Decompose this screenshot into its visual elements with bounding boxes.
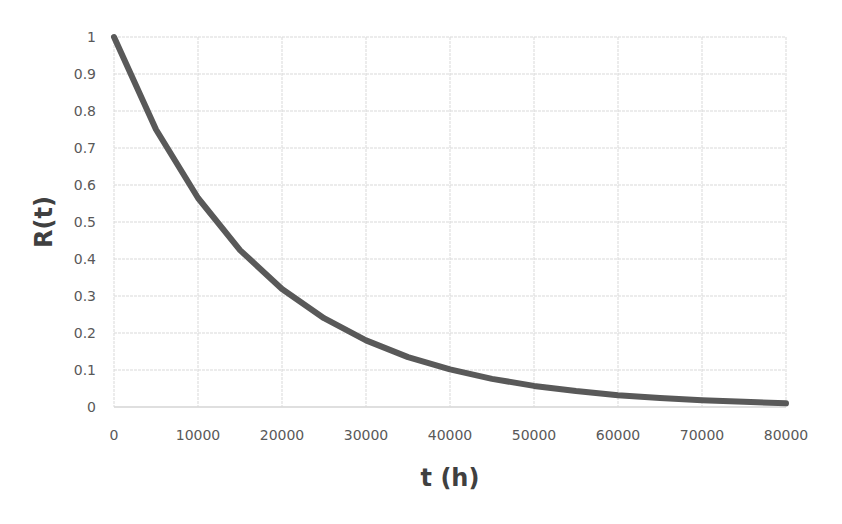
x-tick-label: 70000 bbox=[680, 427, 725, 443]
y-tick-label: 0.8 bbox=[74, 103, 96, 119]
x-tick-label: 50000 bbox=[512, 427, 557, 443]
y-axis-ticks: 00.10.20.30.40.50.60.70.80.91 bbox=[74, 29, 96, 415]
x-tick-label: 10000 bbox=[176, 427, 221, 443]
y-tick-label: 0.9 bbox=[74, 66, 96, 82]
y-axis-title: R(t) bbox=[30, 196, 58, 248]
reliability-chart: 00.10.20.30.40.50.60.70.80.91 0100002000… bbox=[0, 0, 842, 524]
y-tick-label: 0 bbox=[87, 399, 96, 415]
y-tick-label: 0.5 bbox=[74, 214, 96, 230]
y-tick-label: 0.1 bbox=[74, 362, 96, 378]
x-tick-label: 30000 bbox=[344, 427, 389, 443]
x-axis-ticks: 0100002000030000400005000060000700008000… bbox=[110, 427, 809, 443]
x-axis-title: t (h) bbox=[421, 464, 480, 492]
y-tick-label: 0.4 bbox=[74, 251, 96, 267]
x-tick-label: 40000 bbox=[428, 427, 473, 443]
x-tick-label: 60000 bbox=[596, 427, 641, 443]
y-tick-label: 0.3 bbox=[74, 288, 96, 304]
x-tick-label: 80000 bbox=[764, 427, 809, 443]
x-tick-label: 20000 bbox=[260, 427, 305, 443]
y-tick-label: 0.7 bbox=[74, 140, 96, 156]
y-tick-label: 0.6 bbox=[74, 177, 96, 193]
x-tick-label: 0 bbox=[110, 427, 119, 443]
y-tick-label: 1 bbox=[87, 29, 96, 45]
y-tick-label: 0.2 bbox=[74, 325, 96, 341]
